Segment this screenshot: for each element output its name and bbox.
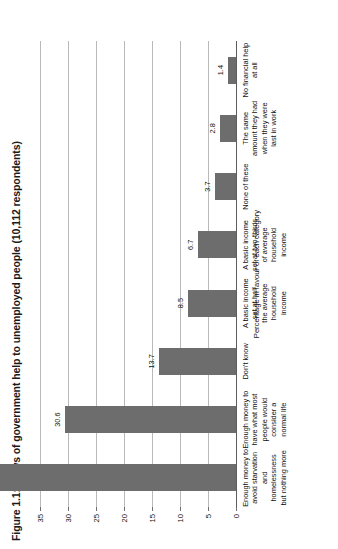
bar-value-label: 1.4 [216,65,225,75]
axis-tick-label: 0 [232,514,241,518]
category-label: A basic income set at two-thirds of aver… [241,216,288,274]
axis-tick-label: 35 [36,514,45,522]
axis-baseline [236,41,237,507]
axis-tick-label: 30 [64,514,73,522]
axis-tick-mark [68,507,69,511]
axis-tick-label: 25 [92,514,101,522]
bar-value-label: 6.7 [186,240,195,250]
category-label: A basic income set at half the average h… [241,274,288,332]
axis-tick-label: 5 [204,514,213,518]
gridline [180,41,181,507]
axis-tick-mark [180,507,181,511]
axis-tick-mark [96,507,97,511]
bar-value-label: 2.8 [208,123,217,133]
gridline [40,41,41,507]
bar: 1.4 [228,57,236,84]
bar: 13.7 [159,348,236,375]
axis-tick-label: 15 [148,514,157,522]
axis-tick-mark [124,507,125,511]
bar-value-label: 8.5 [176,298,185,308]
bar-value-label: 13.7 [147,354,156,368]
bar: 8.5 [188,290,236,317]
bar: 30.6 [65,406,236,433]
category-label: Enough money to have what most people wo… [241,391,288,449]
value-axis-title: Percentage in favour of each category [252,41,261,507]
axis-tick-label: 20 [120,514,129,522]
bar: 3.7 [215,173,236,200]
category-label: Enough money to avoid starvation and hom… [241,449,288,507]
gridline [68,41,69,507]
category-label: None of these [241,158,250,216]
axis-tick-mark [236,507,237,511]
axis-tick-mark [152,507,153,511]
gridline [124,41,125,507]
category-label: Don't know [241,332,250,390]
axis-tick-mark [208,507,209,511]
bar-value-label: 3.7 [203,182,212,192]
bar-value-label: 30.6 [53,412,62,426]
figure-stage: Figure 1.1: Views of government help to … [0,0,338,549]
bar: 52.6 [0,465,236,492]
bar-chart-figure: Figure 1.1: Views of government help to … [0,0,338,549]
axis-tick-mark [40,507,41,511]
axis-tick-label: 10 [176,514,185,522]
gridline [152,41,153,507]
gridline [208,41,209,507]
bar: 2.8 [220,115,236,142]
chart-title: Figure 1.1: Views of government help to … [10,6,22,541]
plot-area: 0510152025303552.6Enough money to avoid … [40,41,236,507]
gridline [96,41,97,507]
bar: 6.7 [198,232,236,259]
